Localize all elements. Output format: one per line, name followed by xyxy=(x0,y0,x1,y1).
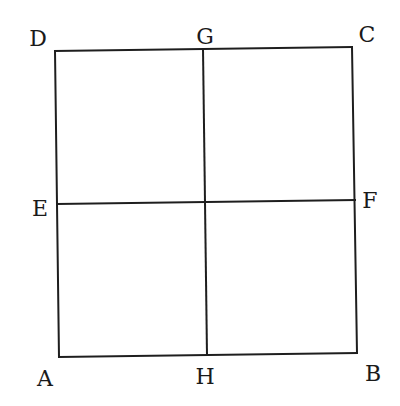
diagram-canvas: ABCDEFGH xyxy=(0,0,400,406)
point-label-e: E xyxy=(32,196,48,221)
point-label-c: C xyxy=(359,22,376,47)
point-label-d: D xyxy=(29,26,47,51)
point-label-g: G xyxy=(196,24,214,49)
point-label-h: H xyxy=(195,364,214,389)
point-label-a: A xyxy=(36,366,54,391)
point-label-f: F xyxy=(362,188,377,213)
segments-group xyxy=(55,47,357,357)
point-label-b: B xyxy=(365,361,381,386)
